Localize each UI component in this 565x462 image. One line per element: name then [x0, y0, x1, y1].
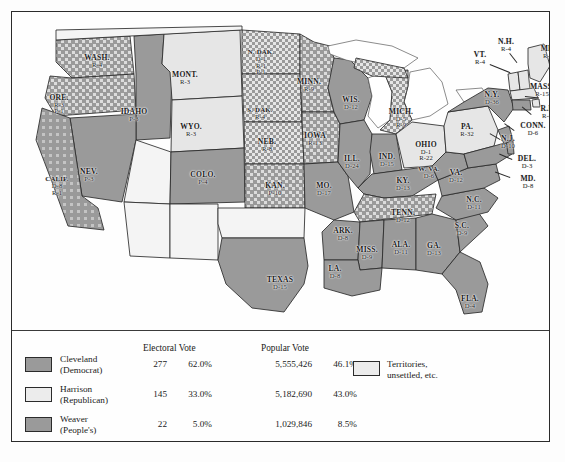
state-vote: P-4 — [190, 179, 215, 186]
state-vote: D-6 — [520, 130, 545, 137]
state-vote: R-9 — [297, 86, 321, 93]
legend-label-territory: Territories, unsettled, etc. — [387, 359, 438, 380]
state-label-n-h: N.H.R-4 — [498, 38, 514, 52]
state-label-wash: WASH.R-4 — [84, 54, 109, 68]
state-rhode-island — [532, 99, 540, 107]
state-label-w-va: W. VA.D-6 — [418, 166, 439, 180]
candidate-name: Cleveland — [60, 354, 97, 364]
legend-popular-percent-harrison: 43.0% — [297, 389, 357, 399]
territory-arizona — [124, 202, 170, 258]
map-canvas: WASH.R-4ORE.R-3P-1IDAHOP-3MONT.R-3WYO.R-… — [12, 12, 549, 330]
state-vote: P-3 — [80, 176, 98, 183]
state-vote: D-24 — [344, 163, 360, 170]
state-label-idaho: IDAHOP-3 — [121, 108, 148, 122]
territory-newmexico — [170, 204, 218, 260]
state-label-ala: ALA.D-11 — [392, 241, 411, 255]
state-vote: R-4 — [474, 59, 486, 66]
state-vote: D-9 — [356, 254, 377, 261]
figure-frame: WASH.R-4ORE.R-3P-1IDAHOP-3MONT.R-3WYO.R-… — [11, 11, 550, 442]
state-label-ky: KY.D-13 — [396, 177, 410, 191]
state-label-nev: NEV.P-3 — [80, 168, 98, 182]
state-vote: D-17 — [316, 190, 332, 197]
state-label-ind: IND.D-15 — [379, 153, 396, 167]
state-label-calif: CALIF.D-8R-1 — [45, 176, 68, 196]
state-vote: D-8 — [520, 183, 535, 190]
state-label-miss: MISS.D-9 — [356, 246, 377, 260]
state-label-mich: MICH.D-5R-9 — [389, 108, 413, 129]
state-new-hampshire — [518, 70, 530, 90]
legend-swatch-weaver — [25, 417, 52, 432]
state-label-va: VA.D-12 — [449, 169, 463, 183]
state-connecticut — [512, 100, 531, 110]
legend-header-electoral: Electoral Vote — [143, 343, 196, 353]
state-vote: D-12 — [342, 104, 359, 111]
state-label-iowa: IOWAR-13 — [304, 132, 326, 146]
state-label-n-c: N.C.D-11 — [466, 196, 482, 210]
state-label-wyo: WYO.R-3 — [180, 123, 202, 137]
legend-popular-percent-weaver: 8.5% — [297, 419, 357, 429]
state-label-fla: FLA.D-4 — [461, 295, 479, 309]
candidate-party: (Republican) — [60, 395, 108, 405]
state-vote: R-4 — [247, 114, 272, 121]
state-vote: D-13 — [427, 250, 441, 257]
state-vote: P-1 — [49, 109, 68, 116]
state-label-s-dak: S. DAK.R-4 — [247, 107, 272, 121]
state-vote: D-15 — [379, 161, 396, 168]
state-vote: D-36 — [485, 99, 500, 106]
state-vote: D-13 — [396, 185, 410, 192]
state-label-s-c: S.C.D-9 — [455, 222, 469, 236]
state-vote: R-32 — [460, 131, 474, 138]
state-label-md: MD.D-8 — [520, 175, 535, 189]
state-vote: R-8 — [258, 146, 276, 153]
state-label-wis: WIS.D-12 — [342, 96, 359, 110]
state-vote: R-13 — [304, 140, 326, 147]
state-vote: R-3 — [180, 131, 202, 138]
state-label-minn: MINN.R-9 — [297, 78, 321, 92]
state-label-r-i: R.I.R-4 — [540, 105, 549, 119]
state-vote: R-1 — [45, 189, 68, 196]
state-vote: R-4 — [84, 62, 109, 69]
candidate-name: Harrison — [60, 384, 92, 394]
state-label-mont: MONT.R-3 — [172, 71, 198, 85]
state-vote: D-15 — [267, 284, 293, 291]
state-label-n-dak: N. DAK.D-1R-1P-1 — [248, 49, 275, 76]
state-label-ill: ILL.D-24 — [344, 155, 360, 169]
legend-swatch-cleveland — [25, 357, 52, 372]
state-label-ore: ORE.R-3P-1 — [49, 94, 68, 115]
legend-electoral-percent-cleveland: 62.0% — [152, 359, 212, 369]
state-vote: P-1 — [248, 70, 275, 77]
state-vote: P-3 — [121, 116, 148, 123]
state-label-n-j: N.J.D-10 — [501, 135, 515, 149]
state-label-vt: VT.R-4 — [474, 51, 486, 65]
state-vote: D-8 — [328, 273, 341, 280]
state-vote: D-6 — [418, 173, 439, 180]
candidate-party: (Democrat) — [60, 365, 102, 375]
state-label-neb: NEB.R-8 — [258, 138, 276, 152]
state-label-texas: TEXASD-15 — [267, 276, 293, 290]
state-vote: R-6 — [541, 53, 549, 60]
state-vote: D-11 — [392, 249, 411, 256]
state-montana — [162, 30, 242, 100]
legend-swatch-territory — [353, 361, 380, 376]
state-vote: D-8 — [333, 235, 353, 242]
state-label-la: LA.D-8 — [328, 265, 341, 279]
state-label-ark: ARK.D-8 — [333, 227, 353, 241]
state-label-del: DEL.D-3 — [518, 155, 536, 169]
state-label-ohio: OHIOD-1R-22 — [415, 141, 436, 162]
election-map-figure: WASH.R-4ORE.R-3P-1IDAHOP-3MONT.R-3WYO.R-… — [0, 0, 565, 462]
state-label-tenn: TENN.D-12 — [391, 209, 415, 223]
state-label-mass: MASS.R-15 — [530, 83, 549, 97]
state-vote: R-9 — [389, 123, 413, 130]
state-vote: R-3 — [172, 79, 198, 86]
state-label-conn: CONN.D-6 — [520, 122, 545, 136]
state-vote: D-9 — [455, 230, 469, 237]
state-vote: D-3 — [518, 163, 536, 170]
state-vote: P-10 — [265, 190, 285, 197]
state-vote: D-10 — [501, 143, 515, 150]
state-label-pa: PA.R-32 — [460, 123, 474, 137]
territory-oklahoma — [218, 208, 305, 238]
legend: Electoral Vote Popular Vote Cleveland(De… — [12, 331, 549, 441]
state-vote: R-4 — [540, 113, 549, 120]
legend-name-cleveland: Cleveland(Democrat) — [60, 354, 102, 375]
candidate-party: (People's) — [60, 425, 96, 435]
